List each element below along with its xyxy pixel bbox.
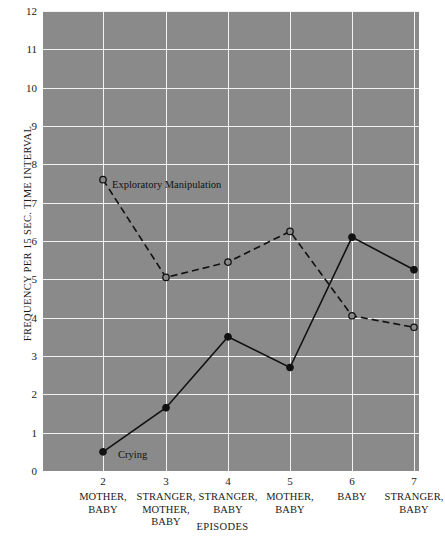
x-axis-tick-7: 7STRANGER,BABY: [372, 475, 445, 516]
data-point: [411, 324, 417, 330]
data-point: [163, 274, 169, 280]
series-label-exploratory-manipulation: Exploratory Manipulation: [112, 179, 221, 190]
data-point: [225, 333, 232, 340]
data-point: [225, 259, 231, 265]
data-point: [287, 364, 294, 371]
series-line-crying: [103, 237, 414, 452]
series-line-exploratory-manipulation: [103, 180, 414, 328]
x-axis-title: EPISODES: [0, 521, 445, 532]
data-point: [100, 448, 107, 455]
data-point: [349, 234, 356, 241]
x-axis-tick-number: 7: [372, 475, 445, 488]
chart-figure: 1211109876543210 FREQUENCY PER 15 SEC. T…: [0, 0, 445, 542]
data-point: [100, 176, 106, 182]
data-point: [163, 404, 170, 411]
x-axis-tick-sublabel: STRANGER,: [372, 491, 445, 504]
x-axis-tick-sublabel: BABY: [372, 504, 445, 517]
data-point: [349, 313, 355, 319]
series-label-crying: Crying: [118, 449, 147, 460]
data-point: [287, 228, 293, 234]
x-axis-tick-sublabel: BABY: [248, 504, 332, 517]
data-point: [411, 266, 418, 273]
series-lines-overlay: [0, 0, 445, 542]
